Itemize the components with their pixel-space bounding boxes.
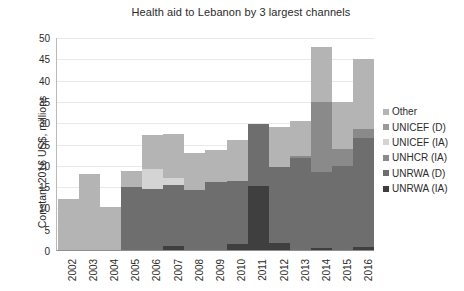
x-axis-tick-label: 2005 bbox=[130, 259, 141, 281]
stacked-bar[interactable] bbox=[269, 127, 290, 250]
bar-segment[interactable] bbox=[353, 247, 374, 250]
bar-slot[interactable] bbox=[58, 38, 79, 250]
x-axis-tick: 2009 bbox=[205, 252, 226, 291]
stacked-bar[interactable] bbox=[184, 153, 205, 250]
x-axis: 2002200320042005200620072008200920102011… bbox=[57, 252, 375, 291]
stacked-bar[interactable] bbox=[311, 47, 332, 250]
bar-slot[interactable] bbox=[353, 38, 374, 250]
stacked-bar[interactable] bbox=[79, 174, 100, 250]
bar-segment[interactable] bbox=[353, 138, 374, 247]
x-axis-tick-label: 2012 bbox=[279, 259, 290, 281]
bar-slot[interactable] bbox=[248, 38, 269, 250]
bar-segment[interactable] bbox=[269, 167, 290, 244]
bar-slot[interactable] bbox=[269, 38, 290, 250]
stacked-bar[interactable] bbox=[205, 150, 226, 250]
bar-segment[interactable] bbox=[290, 158, 311, 250]
bar-segment[interactable] bbox=[142, 169, 163, 189]
x-axis-tick-label: 2006 bbox=[151, 259, 162, 281]
stacked-bar[interactable] bbox=[353, 59, 374, 250]
stacked-bar[interactable] bbox=[142, 135, 163, 250]
y-axis-tick-label: 50 bbox=[39, 33, 50, 44]
legend-label: UNRWA (IA) bbox=[392, 183, 448, 194]
stacked-bar[interactable] bbox=[58, 199, 79, 250]
bar-segment[interactable] bbox=[311, 102, 332, 173]
legend-item[interactable]: UNHCR (IA) bbox=[383, 150, 464, 165]
bar-segment[interactable] bbox=[205, 150, 226, 182]
bar-segment[interactable] bbox=[311, 172, 332, 248]
bar-segment[interactable] bbox=[227, 181, 248, 244]
legend-item[interactable]: UNICEF (D) bbox=[383, 119, 464, 134]
bar-segment[interactable] bbox=[184, 153, 205, 190]
bar-segment[interactable] bbox=[311, 248, 332, 250]
bar-slot[interactable] bbox=[227, 38, 248, 250]
bar-segment[interactable] bbox=[332, 102, 353, 150]
bar-slot[interactable] bbox=[290, 38, 311, 250]
x-axis-tick-label: 2003 bbox=[88, 259, 99, 281]
x-axis-tick: 2002 bbox=[57, 252, 78, 291]
bar-slot[interactable] bbox=[205, 38, 226, 250]
bar-segment[interactable] bbox=[227, 244, 248, 250]
bar-segment[interactable] bbox=[79, 174, 100, 250]
bar-group bbox=[58, 38, 374, 250]
x-axis-tick: 2003 bbox=[78, 252, 99, 291]
bar-segment[interactable] bbox=[205, 182, 226, 250]
legend-swatch-icon bbox=[383, 124, 389, 130]
stacked-bar[interactable] bbox=[163, 134, 184, 250]
bar-segment[interactable] bbox=[184, 190, 205, 250]
bar-segment[interactable] bbox=[311, 47, 332, 102]
bar-segment[interactable] bbox=[248, 186, 269, 250]
bar-slot[interactable] bbox=[79, 38, 100, 250]
bar-segment[interactable] bbox=[121, 171, 142, 187]
legend-item[interactable]: UNICEF (IA) bbox=[383, 135, 464, 150]
legend-label: UNICEF (D) bbox=[392, 122, 446, 133]
bar-segment[interactable] bbox=[142, 135, 163, 169]
bar-segment[interactable] bbox=[353, 59, 374, 128]
bar-segment[interactable] bbox=[163, 134, 184, 179]
x-axis-tick-label: 2015 bbox=[342, 259, 353, 281]
stacked-bar[interactable] bbox=[121, 171, 142, 250]
bar-segment[interactable] bbox=[163, 185, 184, 246]
x-axis-tick-label: 2013 bbox=[300, 259, 311, 281]
legend-swatch-icon bbox=[383, 155, 389, 161]
bar-segment[interactable] bbox=[269, 127, 290, 167]
bar-segment[interactable] bbox=[290, 121, 311, 156]
bar-segment[interactable] bbox=[332, 149, 353, 166]
bar-segment[interactable] bbox=[269, 243, 290, 250]
bar-segment[interactable] bbox=[163, 246, 184, 250]
legend-item[interactable]: UNRWA (D) bbox=[383, 166, 464, 181]
bar-segment[interactable] bbox=[142, 189, 163, 250]
x-axis-tick: 2013 bbox=[290, 252, 311, 291]
bar-slot[interactable] bbox=[184, 38, 205, 250]
stacked-bar[interactable] bbox=[100, 207, 121, 250]
x-axis-tick: 2012 bbox=[269, 252, 290, 291]
bar-slot[interactable] bbox=[142, 38, 163, 250]
bar-segment[interactable] bbox=[58, 199, 79, 250]
x-axis-tick-label: 2008 bbox=[194, 259, 205, 281]
bar-segment[interactable] bbox=[121, 187, 142, 250]
legend-item[interactable]: Other bbox=[383, 104, 464, 119]
x-axis-tick-label: 2016 bbox=[363, 259, 374, 281]
legend-item[interactable]: UNRWA (IA) bbox=[383, 181, 464, 196]
bar-segment[interactable] bbox=[353, 129, 374, 138]
bar-slot[interactable] bbox=[332, 38, 353, 250]
bar-slot[interactable] bbox=[311, 38, 332, 250]
stacked-bar[interactable] bbox=[227, 140, 248, 250]
bar-slot[interactable] bbox=[121, 38, 142, 250]
stacked-bar[interactable] bbox=[332, 102, 353, 250]
bar-slot[interactable] bbox=[163, 38, 184, 250]
bar-segment[interactable] bbox=[100, 207, 121, 250]
y-axis-tick-label: 35 bbox=[39, 96, 50, 107]
bar-slot[interactable] bbox=[100, 38, 121, 250]
bar-segment[interactable] bbox=[248, 124, 269, 186]
stacked-bar[interactable] bbox=[290, 121, 311, 250]
x-axis-tick-label: 2011 bbox=[257, 259, 268, 281]
stacked-bar[interactable] bbox=[248, 124, 269, 250]
bar-segment[interactable] bbox=[332, 166, 353, 250]
x-axis-tick-label: 2010 bbox=[236, 259, 247, 281]
x-axis-tick-label: 2002 bbox=[67, 259, 78, 281]
chart-container: Health aid to Lebanon by 3 largest chann… bbox=[0, 0, 464, 291]
bar-segment[interactable] bbox=[227, 140, 248, 180]
x-axis-tick: 2014 bbox=[311, 252, 332, 291]
x-axis-tick-label: 2009 bbox=[215, 259, 226, 281]
y-axis-tick-label: 0 bbox=[44, 246, 50, 257]
